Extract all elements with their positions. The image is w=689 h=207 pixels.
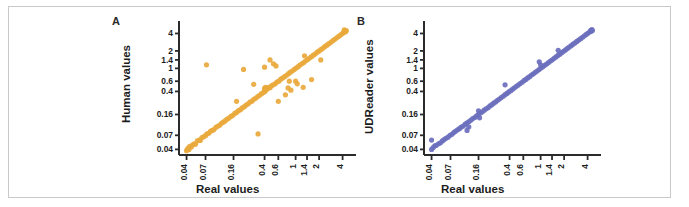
panel-b: B UDReader values Real values 0.040.070.… xyxy=(349,7,604,199)
svg-text:1.4: 1.4 xyxy=(544,164,554,176)
svg-text:0.4: 0.4 xyxy=(161,86,173,96)
svg-text:0.04: 0.04 xyxy=(402,144,419,154)
svg-text:2: 2 xyxy=(413,46,418,56)
svg-text:1: 1 xyxy=(533,164,543,169)
figure-frame: A Human values Real values 0.040.070.160… xyxy=(8,6,671,198)
svg-text:0.04: 0.04 xyxy=(157,144,174,154)
svg-text:0.04: 0.04 xyxy=(179,164,189,181)
svg-text:2: 2 xyxy=(311,164,321,169)
svg-text:2: 2 xyxy=(556,164,566,169)
svg-text:0.04: 0.04 xyxy=(424,164,434,181)
svg-text:4: 4 xyxy=(580,164,590,169)
svg-text:0.16: 0.16 xyxy=(226,164,236,181)
panel-a-plot: 0.040.070.160.40.611.4240.040.070.160.40… xyxy=(104,7,359,199)
svg-text:0.6: 0.6 xyxy=(270,164,280,176)
svg-text:4: 4 xyxy=(335,164,345,169)
svg-text:1: 1 xyxy=(288,164,298,169)
svg-text:0.16: 0.16 xyxy=(471,164,481,181)
svg-text:0.16: 0.16 xyxy=(402,109,419,119)
svg-text:0.6: 0.6 xyxy=(406,76,418,86)
svg-text:0.4: 0.4 xyxy=(502,164,512,176)
svg-text:2: 2 xyxy=(168,46,173,56)
svg-text:0.16: 0.16 xyxy=(157,109,174,119)
svg-text:0.07: 0.07 xyxy=(402,130,419,140)
svg-text:0.6: 0.6 xyxy=(515,164,525,176)
svg-text:4: 4 xyxy=(413,28,418,38)
panel-b-plot: 0.040.070.160.40.611.4240.040.070.160.40… xyxy=(349,7,604,199)
svg-text:0.07: 0.07 xyxy=(157,130,174,140)
svg-text:0.6: 0.6 xyxy=(161,76,173,86)
svg-text:1.4: 1.4 xyxy=(161,55,173,65)
svg-text:0.07: 0.07 xyxy=(198,164,208,181)
svg-text:0.4: 0.4 xyxy=(406,86,418,96)
svg-text:0.4: 0.4 xyxy=(257,164,267,176)
svg-text:1.4: 1.4 xyxy=(299,164,309,176)
svg-text:0.07: 0.07 xyxy=(443,164,453,181)
svg-text:1.4: 1.4 xyxy=(406,55,418,65)
panel-a: A Human values Real values 0.040.070.160… xyxy=(104,7,359,199)
svg-text:4: 4 xyxy=(168,28,173,38)
